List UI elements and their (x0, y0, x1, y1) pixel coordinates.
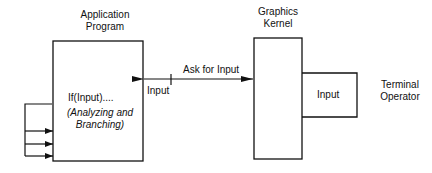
terminal-line2: Operator (370, 91, 430, 103)
application-title-line1: Application (65, 9, 145, 21)
terminal-operator-label: Terminal Operator (370, 79, 430, 103)
comment-text: (Analyzing and Branching) (60, 107, 140, 131)
graphics-kernel-box (254, 38, 302, 159)
feedback-loop-line (25, 104, 52, 156)
input-device-label: Input (317, 89, 339, 101)
kernel-title-line1: Graphics (238, 6, 318, 18)
terminal-line1: Terminal (370, 79, 430, 91)
application-program-title: Application Program (65, 9, 145, 33)
comment-line2: Branching) (60, 119, 140, 131)
application-title-line2: Program (65, 21, 145, 33)
ask-for-input-label: Ask for Input (183, 64, 239, 76)
comment-line1: (Analyzing and (60, 107, 140, 119)
return-input-label: Input (147, 85, 169, 97)
kernel-title-line2: Kernel (238, 18, 318, 30)
graphics-kernel-title: Graphics Kernel (238, 6, 318, 30)
code-line: If(Input).... (68, 92, 114, 104)
